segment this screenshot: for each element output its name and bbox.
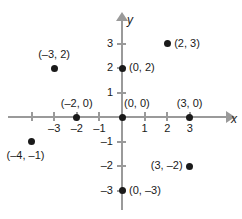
y-tick-label: 3 <box>89 37 113 49</box>
x-tick-label: 1 <box>133 122 157 134</box>
y-tick-label: 1 <box>89 86 113 98</box>
data-point <box>186 114 193 121</box>
data-point <box>28 138 35 145</box>
y-axis-label: y <box>127 13 133 27</box>
data-point-label: (0, –3) <box>129 184 161 196</box>
data-point <box>73 114 80 121</box>
data-point <box>51 65 58 72</box>
x-tick-mark <box>98 112 100 121</box>
data-point <box>119 187 126 194</box>
data-point-label: (0, 2) <box>129 61 155 73</box>
x-tick-mark <box>31 112 33 121</box>
x-tick-mark <box>166 112 168 121</box>
data-point <box>119 65 126 72</box>
x-tick-mark <box>53 112 55 121</box>
data-point <box>164 40 171 47</box>
x-axis-label: x <box>231 112 237 126</box>
x-tick-label: –2 <box>65 122 89 134</box>
y-tick-label: –1 <box>89 135 113 147</box>
coordinate-plane-chart: x y –3–2–1123321–1–2–3 (–3, 2)(2, 3)(0, … <box>0 0 242 219</box>
y-tick-label: 2 <box>89 61 113 73</box>
y-tick-mark <box>117 92 126 94</box>
y-tick-mark <box>117 43 126 45</box>
data-point-label: (3, 0) <box>177 97 203 109</box>
data-point-label: (0, 0) <box>124 97 150 109</box>
x-tick-label: 3 <box>178 122 202 134</box>
y-tick-mark <box>117 165 126 167</box>
data-point-label: (3, –2) <box>151 159 183 171</box>
x-tick-label: 2 <box>155 122 179 134</box>
data-point <box>119 114 126 121</box>
data-point-label: (–2, 0) <box>61 97 93 109</box>
y-tick-mark <box>117 141 126 143</box>
x-tick-label: –1 <box>87 122 111 134</box>
x-tick-mark <box>144 112 146 121</box>
data-point-label: (2, 3) <box>174 37 200 49</box>
y-tick-label: –3 <box>89 184 113 196</box>
data-point <box>186 163 193 170</box>
data-point-label: (–3, 2) <box>38 48 70 60</box>
x-tick-label: –3 <box>42 122 66 134</box>
data-point-label: (–4, –1) <box>7 149 45 161</box>
y-tick-label: –2 <box>89 159 113 171</box>
